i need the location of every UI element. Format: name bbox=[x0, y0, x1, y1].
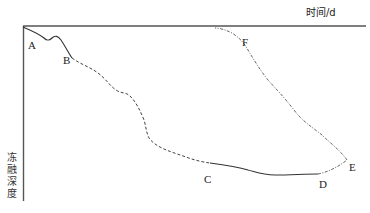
curve-segment-b-c bbox=[72, 58, 210, 163]
freeze-thaw-depth-diagram bbox=[0, 0, 370, 213]
curve-segment-d-e bbox=[318, 160, 347, 174]
y-axis-label-char: 深 bbox=[6, 176, 18, 188]
x-axis-label: 时间/d bbox=[306, 8, 336, 18]
y-axis-label-char: 融 bbox=[6, 164, 18, 176]
curve-segment-e-f bbox=[215, 28, 347, 160]
y-axis-label-char: 冻 bbox=[6, 152, 18, 164]
point-label-b: B bbox=[63, 55, 70, 66]
point-label-d: D bbox=[319, 179, 327, 190]
y-axis-label: 冻 融 深 度 bbox=[6, 152, 18, 200]
point-label-e: E bbox=[349, 162, 356, 173]
point-label-f: F bbox=[242, 37, 248, 48]
y-axis-label-char: 度 bbox=[6, 188, 18, 200]
point-label-a: A bbox=[28, 40, 36, 51]
curve-segment-c-d bbox=[210, 163, 318, 175]
point-label-c: C bbox=[204, 174, 211, 185]
